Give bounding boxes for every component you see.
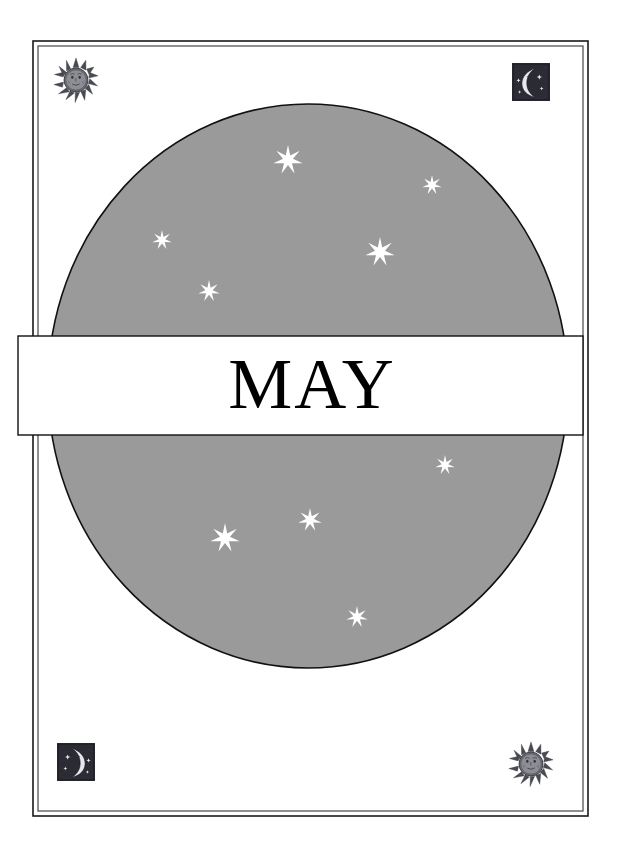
moon-face-icon bbox=[512, 63, 550, 101]
moon-face-icon bbox=[57, 743, 95, 781]
calendar-page: MAY bbox=[0, 0, 624, 849]
month-title-band bbox=[18, 336, 583, 435]
calendar-artwork bbox=[0, 0, 624, 849]
